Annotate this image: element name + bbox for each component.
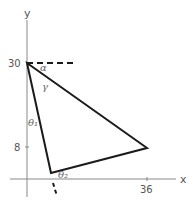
angle-alpha-label: α [40, 62, 47, 73]
angle-theta1-label: θ₁ [28, 117, 38, 128]
diagram-canvas: y x 30 8 36 α γ θ₁ θ₂ [0, 0, 193, 207]
angle-gamma-label: γ [42, 81, 48, 92]
y-tick-label-30: 30 [8, 58, 21, 69]
triangle [27, 63, 147, 173]
extension-dashed [53, 183, 57, 196]
y-axis-label: y [24, 7, 31, 20]
y-tick-label-8: 8 [14, 142, 20, 153]
x-tick-label-36: 36 [140, 184, 153, 195]
x-axis-label: x [180, 173, 187, 186]
angle-theta2-label: θ₂ [58, 169, 68, 180]
